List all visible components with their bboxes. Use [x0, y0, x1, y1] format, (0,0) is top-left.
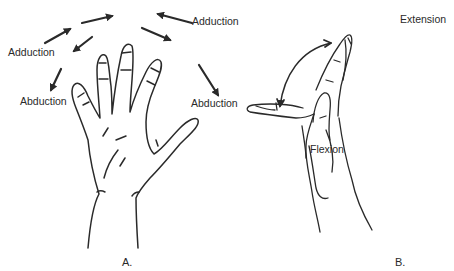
arrow-icon [51, 69, 61, 90]
arrow-icon [45, 29, 70, 43]
hand-motion-figure: Adduction Adduction Abduction Abduction … [0, 0, 454, 271]
arrow-icon [74, 37, 92, 51]
extension-label: Extension [400, 14, 446, 25]
abduction-label-left: Abduction [20, 96, 67, 107]
panel-label-a: A. [122, 257, 132, 268]
abduction-label-right: Abduction [191, 98, 238, 109]
side-hand-drawing [247, 35, 372, 232]
arrow-icon [158, 14, 192, 23]
adduction-label-left: Adduction [8, 47, 55, 58]
illustration [0, 0, 454, 271]
panel-label-b: B. [395, 257, 405, 268]
flexion-label: Flexion [310, 144, 344, 155]
arrow-icon [199, 65, 218, 95]
adduction-label-right: Adduction [192, 16, 239, 27]
open-hand-drawing [72, 44, 198, 248]
arrow-icon [82, 16, 112, 23]
arrow-icon [142, 28, 170, 40]
